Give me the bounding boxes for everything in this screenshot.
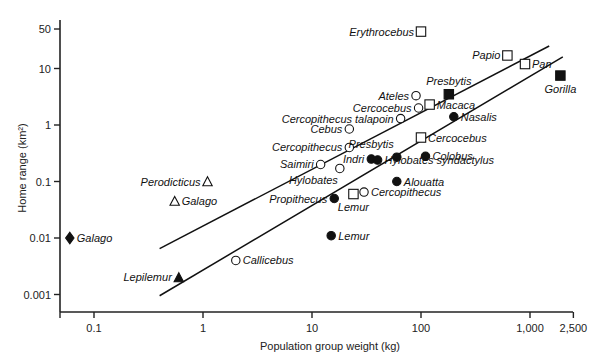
point-label: Macaca bbox=[437, 99, 476, 111]
data-point: Saimiri bbox=[280, 158, 325, 170]
point-label: Indri bbox=[343, 153, 365, 165]
data-point: Cercopithecus bbox=[272, 141, 354, 153]
data-points: GalagoLepilemurPerodicticusGalagoCallice… bbox=[66, 26, 577, 284]
x-tick-label: 1 bbox=[200, 322, 206, 334]
y-tick-label: 0.1 bbox=[36, 176, 51, 188]
data-point: Papio bbox=[472, 49, 512, 61]
data-point: Cebus bbox=[311, 123, 354, 135]
data-point: Presbytis bbox=[426, 75, 472, 99]
point-label: Papio bbox=[472, 49, 500, 61]
point-label: Galago bbox=[182, 195, 217, 207]
data-point: Perodicticus bbox=[141, 176, 213, 188]
data-point: Galago bbox=[170, 195, 217, 207]
point-label: Ateles bbox=[377, 90, 409, 102]
point-label: Propithecus bbox=[269, 193, 328, 205]
x-tick-label: 10 bbox=[306, 322, 318, 334]
y-tick-label: 10 bbox=[39, 63, 51, 75]
x-tick-label: 2,500 bbox=[560, 322, 588, 334]
point-label: Lemur bbox=[338, 230, 371, 242]
data-point: Gorilla bbox=[544, 71, 576, 95]
point-label: Lemur bbox=[338, 201, 371, 213]
regression-lines bbox=[160, 46, 563, 296]
point-label: Alouatta bbox=[403, 176, 444, 188]
x-tick-label: 1,000 bbox=[516, 322, 544, 334]
point-label: Perodicticus bbox=[141, 176, 201, 188]
x-tick-label: 100 bbox=[412, 322, 430, 334]
point-label: Galago bbox=[77, 232, 112, 244]
point-label: Lepilemur bbox=[124, 271, 174, 283]
data-point: Galago bbox=[66, 232, 113, 244]
data-point: Erythrocebus bbox=[349, 26, 426, 38]
data-point: Lemur bbox=[327, 230, 371, 242]
point-label: Nasalis bbox=[461, 111, 498, 123]
data-point: Nasalis bbox=[450, 111, 498, 123]
point-label: Cercopithecus bbox=[272, 141, 343, 153]
x-tick-label: 0.1 bbox=[86, 322, 101, 334]
regression-line bbox=[160, 57, 563, 296]
data-point: Propithecus bbox=[269, 193, 338, 205]
point-label: Saimiri bbox=[280, 158, 314, 170]
data-point: Lepilemur bbox=[124, 271, 184, 283]
data-point: Indri bbox=[343, 153, 376, 165]
data-point: Cercopithecus bbox=[360, 186, 442, 198]
data-point: Cercocebus bbox=[353, 102, 423, 114]
y-tick-label: 50 bbox=[39, 23, 51, 35]
point-label: Hylobates bbox=[289, 174, 338, 186]
point-label: Cercopithecus bbox=[371, 186, 442, 198]
point-label: Cercocebus bbox=[353, 102, 412, 114]
point-label: Pan bbox=[532, 58, 552, 70]
data-point: Cercopithecus talapoin bbox=[282, 113, 405, 125]
point-label: Presbytis bbox=[426, 75, 472, 87]
point-label: Cercopithecus talapoin bbox=[282, 113, 394, 125]
point-label: Colobus bbox=[433, 150, 474, 162]
point-label: Erythrocebus bbox=[349, 26, 414, 38]
y-tick-label: 1 bbox=[45, 119, 51, 131]
y-axis-title: Home range (km²) bbox=[16, 123, 28, 212]
y-tick-label: 0.01 bbox=[30, 232, 51, 244]
y-tick-label: 0.001 bbox=[23, 289, 51, 301]
point-label: Cebus bbox=[311, 123, 343, 135]
data-point: Pan bbox=[520, 58, 551, 70]
scatter-chart: 501010.10.010.0010.11101001,0002,500 Gal… bbox=[0, 0, 612, 364]
data-point: Ateles bbox=[377, 90, 420, 102]
data-point: Callicebus bbox=[232, 254, 294, 266]
point-label: Cercocebus bbox=[428, 132, 487, 144]
point-label: Callicebus bbox=[243, 254, 294, 266]
x-axis-title: Population group weight (kg) bbox=[260, 340, 400, 352]
point-label: Presbytis bbox=[349, 138, 395, 150]
point-label: Gorilla bbox=[544, 83, 576, 95]
data-point: Macaca bbox=[425, 99, 475, 111]
